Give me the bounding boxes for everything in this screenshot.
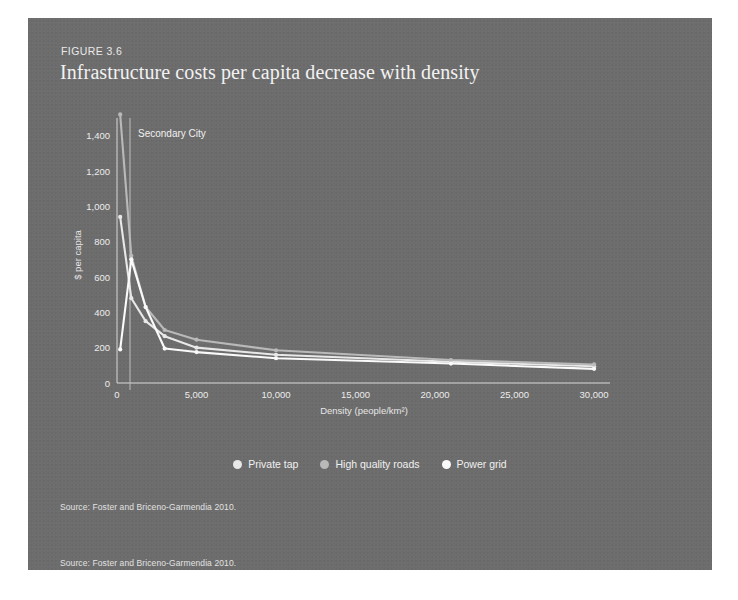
x-tick-label: 30,000: [580, 389, 609, 400]
series-point-private-tap: [144, 319, 148, 323]
series-point-power-grid: [449, 361, 453, 365]
series-line-high-quality-roads: [120, 114, 594, 364]
x-tick-label: 20,000: [421, 389, 450, 400]
series-point-private-tap: [129, 296, 133, 300]
chart-legend: Private tapHigh quality roadsPower grid: [28, 458, 712, 470]
figure-page: FIGURE 3.6 Infrastructure costs per capi…: [0, 0, 738, 600]
series-point-high-quality-roads: [118, 112, 122, 116]
y-tick-label: 600: [94, 272, 110, 283]
y-tick-label: 1,200: [86, 166, 110, 177]
y-tick-label: 400: [94, 307, 110, 318]
y-tick-label: 800: [94, 236, 110, 247]
legend-item-private-tap[interactable]: Private tap: [233, 458, 298, 470]
legend-label: Private tap: [248, 458, 298, 470]
legend-swatch-circle-icon: [233, 460, 242, 469]
series-point-power-grid: [163, 346, 167, 350]
series-point-private-tap: [118, 215, 122, 219]
series-point-high-quality-roads: [163, 328, 167, 332]
y-tick-label: 0: [105, 378, 110, 389]
series-point-private-tap: [194, 346, 198, 350]
series-point-power-grid: [274, 356, 278, 360]
legend-swatch-circle-icon: [442, 460, 451, 469]
series-point-power-grid: [118, 347, 122, 351]
series-point-power-grid: [194, 350, 198, 354]
figure-panel: FIGURE 3.6 Infrastructure costs per capi…: [28, 18, 712, 570]
x-axis-title: Density (people/km²): [320, 405, 408, 416]
legend-item-power-grid[interactable]: Power grid: [442, 458, 507, 470]
y-axis-tick-labels: 02004006008001,0001,2001,400: [86, 130, 110, 388]
x-tick-label: 10,000: [262, 389, 291, 400]
source-note-primary: Source: Foster and Briceno-Garmendia 201…: [60, 502, 236, 512]
x-tick-label: 5,000: [185, 389, 209, 400]
legend-item-high-quality-roads[interactable]: High quality roads: [320, 458, 419, 470]
series-line-power-grid: [120, 259, 594, 369]
x-tick-label: 0: [114, 389, 119, 400]
x-tick-label: 15,000: [341, 389, 370, 400]
y-tick-label: 1,000: [86, 201, 110, 212]
legend-label: High quality roads: [335, 458, 419, 470]
y-tick-label: 200: [94, 342, 110, 353]
x-tick-label: 25,000: [500, 389, 529, 400]
legend-label: Power grid: [457, 458, 507, 470]
chart-plot-area: 02004006008001,0001,2001,400 05,00010,00…: [28, 18, 712, 570]
series-point-high-quality-roads: [592, 362, 596, 366]
series-point-power-grid: [129, 257, 133, 261]
series-point-power-grid: [592, 367, 596, 371]
annotation-secondary-city: Secondary City: [138, 128, 206, 139]
series-point-high-quality-roads: [194, 338, 198, 342]
y-axis-title: $ per capita: [72, 229, 83, 279]
x-axis-tick-labels: 05,00010,00015,00020,00025,00030,000: [114, 389, 608, 400]
chart-svg: 02004006008001,0001,2001,400 05,00010,00…: [28, 18, 712, 570]
series-point-high-quality-roads: [274, 348, 278, 352]
chart-series-group: [118, 112, 596, 371]
series-point-private-tap: [163, 334, 167, 338]
legend-swatch-circle-icon: [320, 460, 329, 469]
series-line-private-tap: [120, 217, 594, 366]
y-tick-label: 1,400: [86, 130, 110, 141]
source-note-secondary: Source: Foster and Briceno-Garmendia 201…: [60, 558, 236, 568]
series-point-power-grid: [144, 305, 148, 309]
